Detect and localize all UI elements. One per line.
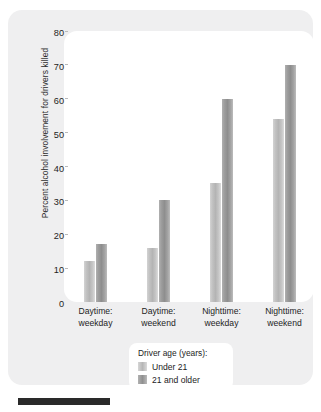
y-axis-ticks: 01020304050607080 [28, 31, 68, 302]
x-axis-label-line: weekday [186, 318, 258, 330]
bar [96, 244, 107, 302]
bar [285, 65, 296, 302]
x-axis-label-line: Nighttime: [249, 306, 321, 318]
bar-group [273, 31, 296, 302]
bar-group [84, 31, 107, 302]
bar [147, 248, 158, 302]
bar-group [147, 31, 170, 302]
x-axis-label-line: Daytime: [60, 306, 132, 318]
legend-item-under-21: Under 21 [138, 361, 233, 373]
x-axis-label: Daytime:weekend [123, 306, 195, 329]
legend-label-under-21: Under 21 [152, 362, 187, 372]
x-axis-labels: Daytime:weekdayDaytime:weekendNighttime:… [64, 306, 314, 338]
legend-item-21-and-older: 21 and older [138, 374, 233, 386]
legend-title: Driver age (years): [138, 348, 233, 358]
x-axis-label-line: weekday [60, 318, 132, 330]
legend: Driver age (years): Under 21 21 and olde… [129, 343, 233, 390]
figure-card: Percent alcohol involvement for drivers … [8, 10, 313, 385]
x-axis-label-line: Daytime: [123, 306, 195, 318]
x-axis-label-line: weekend [123, 318, 195, 330]
legend-swatch-21-and-older [138, 375, 147, 384]
bar-group [210, 31, 233, 302]
x-axis-label-line: weekend [249, 318, 321, 330]
bar [273, 119, 284, 302]
bar [84, 261, 95, 302]
x-axis-label: Daytime:weekday [60, 306, 132, 329]
bottom-rule [18, 398, 110, 405]
bar [210, 183, 221, 302]
x-axis-label-line: Nighttime: [186, 306, 258, 318]
x-axis-label: Nighttime:weekend [249, 306, 321, 329]
bar [222, 99, 233, 302]
bars-area [64, 31, 314, 302]
bar [159, 200, 170, 302]
x-axis-label: Nighttime:weekday [186, 306, 258, 329]
legend-swatch-under-21 [138, 362, 147, 371]
legend-label-21-and-older: 21 and older [152, 375, 200, 385]
